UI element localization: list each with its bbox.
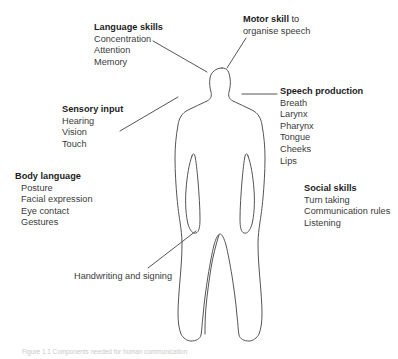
list-item: Gestures xyxy=(21,217,93,229)
right-arm-inner-path xyxy=(240,154,254,233)
callout-heading-sensory-input: Sensory input xyxy=(62,104,123,116)
figure-caption: Figure 1.1 Components needed for human c… xyxy=(22,348,187,356)
list-item: Lips xyxy=(280,156,363,168)
callout-heading-social-skills: Social skills xyxy=(304,183,390,195)
callout-heading-language-skills: Language skills xyxy=(94,22,163,34)
list-item: organise speech xyxy=(243,26,310,38)
list-item: Posture xyxy=(21,183,93,195)
callout-list-body-language: Posture Facial expression Eye contact Ge… xyxy=(15,183,93,229)
callout-list-motor-skill: organise speech xyxy=(243,26,310,38)
callout-list-sensory-input: Hearing Vision Touch xyxy=(62,116,123,151)
list-item: Tongue xyxy=(280,132,363,144)
callout-heading-body-language: Body language xyxy=(15,171,93,183)
list-item: Cheeks xyxy=(280,144,363,156)
connector-motor-skill xyxy=(227,38,246,68)
list-item: Pharynx xyxy=(280,121,363,133)
list-item: Concentration xyxy=(94,34,163,46)
list-item: Facial expression xyxy=(21,194,93,206)
callout-heading-motor-skill-suffix: to xyxy=(289,14,299,24)
list-item: Eye contact xyxy=(21,206,93,218)
list-item: Vision xyxy=(62,127,123,139)
callout-heading-motor-skill-bold: Motor skill xyxy=(243,14,289,24)
list-item: Larynx xyxy=(280,109,363,121)
list-item: Breath xyxy=(280,98,363,110)
list-item: Touch xyxy=(62,139,123,151)
figure-container: Language skills Concentration Attention … xyxy=(0,0,398,359)
left-arm-inner-path xyxy=(186,154,200,233)
callout-heading-motor-skill: Motor skill to xyxy=(243,14,310,26)
list-item: Attention xyxy=(94,45,163,57)
callout-list-social-skills: Turn taking Communication rules Listenin… xyxy=(304,195,390,230)
callout-sensory-input: Sensory input Hearing Vision Touch xyxy=(62,104,123,150)
list-item: Listening xyxy=(304,218,390,230)
callout-motor-skill: Motor skill to organise speech xyxy=(243,14,310,37)
connector-handwriting xyxy=(148,231,196,268)
body-silhouette-path xyxy=(175,68,265,341)
list-item: Memory xyxy=(94,57,163,69)
callout-body-language: Body language Posture Facial expression … xyxy=(15,171,93,229)
callout-social-skills: Social skills Turn taking Communication … xyxy=(304,183,390,229)
callout-list-speech-production: Breath Larynx Pharynx Tongue Cheeks Lips xyxy=(280,98,363,168)
note-handwriting-and-signing: Handwriting and signing xyxy=(74,271,172,283)
callout-list-language-skills: Concentration Attention Memory xyxy=(94,34,163,69)
list-item: Turn taking xyxy=(304,195,390,207)
connector-sensory-input xyxy=(120,97,178,131)
list-item: Communication rules xyxy=(304,206,390,218)
list-item: Hearing xyxy=(62,116,123,128)
callout-language-skills: Language skills Concentration Attention … xyxy=(94,22,163,68)
callout-heading-speech-production: Speech production xyxy=(280,86,363,98)
callout-speech-production: Speech production Breath Larynx Pharynx … xyxy=(280,86,363,167)
